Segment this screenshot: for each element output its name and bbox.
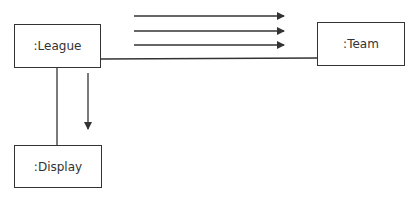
link-league-team (100, 58, 318, 59)
object-display: :Display (14, 145, 102, 188)
object-league-label: :League (34, 39, 82, 53)
object-team-label: :Team (343, 37, 379, 51)
object-league: :League (14, 24, 101, 68)
object-display-label: :Display (34, 160, 82, 174)
object-team: :Team (317, 22, 405, 66)
